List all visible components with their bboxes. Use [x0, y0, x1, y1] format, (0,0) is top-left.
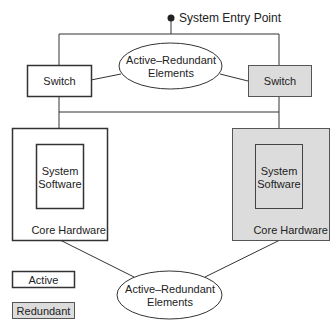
left-software-line2: Software: [36, 178, 84, 190]
entry-point-label: System Entry Point: [179, 12, 281, 24]
top-ellipse: [119, 43, 222, 89]
legend-active-label: Active: [12, 274, 75, 286]
right-software-line2: Software: [255, 178, 303, 190]
redundancy-diagram: System Entry Point Active–Redundant Elem…: [0, 0, 334, 329]
bottom-ellipse-label-line2: Elements: [117, 296, 223, 308]
entry-point-dot-icon: [168, 15, 175, 22]
top-ellipse-label-line1: Active–Redundant: [119, 54, 223, 66]
left-core-hardware-label: Core Hardware: [20, 224, 106, 236]
legend-redundant-label: Redundant: [12, 305, 75, 317]
left-software-line1: System: [36, 165, 84, 177]
left-switch-label: Switch: [27, 75, 92, 87]
right-software-line1: System: [255, 165, 303, 177]
top-ellipse-label-line2: Elements: [119, 67, 223, 79]
right-switch-label: Switch: [248, 75, 312, 87]
right-core-hardware-label: Core Hardware: [240, 224, 328, 236]
bottom-ellipse-label-line1: Active–Redundant: [117, 283, 223, 295]
bottom-ellipse: [117, 271, 222, 319]
